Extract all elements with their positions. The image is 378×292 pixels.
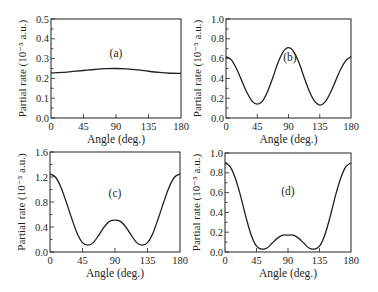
- panel-b: 0.00.20.40.60.81.004590135180Angle (deg.…: [191, 14, 359, 147]
- x-tick-label: 180: [172, 255, 188, 266]
- y-tick-label: 1.0: [211, 14, 224, 25]
- y-tick-label: 0.2: [36, 73, 49, 84]
- panel-label: (c): [109, 187, 122, 200]
- panel-label: (d): [281, 185, 295, 198]
- x-tick-label: 90: [283, 255, 294, 266]
- x-tick-label: 0: [222, 255, 227, 266]
- x-tick-label: 90: [110, 255, 121, 266]
- x-axis-label: Angle (deg.): [86, 267, 144, 280]
- y-tick-label: 0.4: [210, 207, 224, 218]
- y-tick-label: 1.2: [35, 172, 48, 183]
- y-tick-label: 0.0: [210, 247, 223, 258]
- y-axis-label: Partial rate (10⁻⁵ a.u.): [16, 20, 29, 118]
- panel-a: 0.00.10.20.30.40.504590135180Angle (deg.…: [16, 14, 189, 147]
- data-curve: [225, 163, 351, 249]
- y-axis: 0.00.10.20.30.40.5: [36, 14, 55, 124]
- y-tick-label: 0.2: [210, 227, 223, 238]
- y-tick-label: 1.6: [35, 147, 48, 158]
- data-curve: [51, 68, 181, 73]
- panel-c: 0.00.40.81.21.604590135180Angle (deg.)Pa…: [15, 147, 188, 281]
- x-tick-label: 135: [140, 255, 156, 266]
- x-tick-label: 0: [223, 121, 228, 132]
- y-tick-label: 0.5: [36, 14, 49, 25]
- y-tick-label: 0.6: [211, 53, 224, 64]
- y-axis-label: Partial rate (10⁻⁵ a.u.): [191, 20, 204, 118]
- y-tick-label: 0.0: [211, 113, 224, 124]
- x-tick-label: 45: [251, 255, 262, 266]
- y-tick-label: 0.0: [35, 247, 48, 258]
- data-curve: [50, 174, 180, 245]
- y-axis: 0.00.20.40.60.81.0: [211, 14, 230, 124]
- y-tick-label: 0.4: [35, 222, 49, 233]
- panel-d: 0.00.20.40.60.81.004590135180Angle (deg.…: [190, 148, 359, 281]
- y-tick-label: 0.0: [36, 113, 49, 124]
- y-axis-label: Partial rate (10⁻⁵ a.u.): [15, 153, 28, 251]
- y-axis-label: Partial rate (10⁻⁵ a.u.): [190, 154, 203, 252]
- y-axis: 0.00.40.81.21.6: [35, 147, 54, 258]
- x-axis: 04590135180: [222, 248, 359, 266]
- x-tick-label: 135: [141, 121, 157, 132]
- x-tick-label: 45: [77, 255, 88, 266]
- y-tick-label: 0.3: [36, 53, 49, 64]
- plot-frame: [226, 19, 351, 118]
- x-tick-label: 135: [312, 255, 328, 266]
- y-tick-label: 0.6: [210, 187, 223, 198]
- panel-label: (b): [283, 51, 297, 64]
- x-tick-label: 180: [343, 255, 359, 266]
- x-tick-label: 45: [78, 121, 89, 132]
- y-tick-label: 0.4: [211, 73, 225, 84]
- x-axis: 04590135180: [47, 248, 188, 266]
- figure: 0.00.10.20.30.40.504590135180Angle (deg.…: [0, 0, 378, 292]
- y-tick-label: 0.8: [211, 33, 224, 44]
- y-tick-label: 0.4: [36, 33, 50, 44]
- plot-frame: [225, 153, 351, 252]
- y-tick-label: 0.8: [35, 197, 48, 208]
- x-tick-label: 90: [283, 121, 294, 132]
- panel-label: (a): [110, 47, 123, 60]
- y-tick-label: 0.2: [211, 93, 224, 104]
- x-tick-label: 180: [173, 121, 189, 132]
- x-axis: 04590135180: [223, 114, 359, 132]
- y-tick-label: 0.8: [210, 167, 223, 178]
- y-tick-label: 0.1: [36, 93, 49, 104]
- x-tick-label: 45: [252, 121, 263, 132]
- x-tick-label: 180: [343, 121, 359, 132]
- x-tick-label: 135: [312, 121, 328, 132]
- x-axis-label: Angle (deg.): [259, 133, 317, 146]
- plot-frame: [50, 152, 180, 252]
- x-axis-label: Angle (deg.): [87, 133, 145, 146]
- x-tick-label: 0: [48, 121, 53, 132]
- x-tick-label: 90: [111, 121, 122, 132]
- x-axis: 04590135180: [48, 114, 189, 132]
- x-tick-label: 0: [47, 255, 52, 266]
- y-tick-label: 1.0: [210, 148, 223, 159]
- x-axis-label: Angle (deg.): [259, 267, 317, 280]
